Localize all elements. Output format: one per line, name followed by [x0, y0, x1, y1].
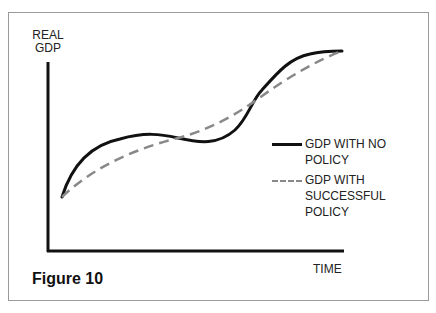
- x-axis-label: TIME: [313, 262, 342, 276]
- legend-item-successful-policy: GDP WITH SUCCESSFUL POLICY: [265, 172, 386, 220]
- solid-line-swatch-icon: [272, 143, 302, 146]
- legend-text: GDP WITH: [305, 172, 386, 188]
- dashed-line-swatch-icon: [272, 180, 302, 182]
- legend-text: POLICY: [305, 152, 386, 168]
- y-axis-label: REAL GDP: [32, 29, 64, 55]
- legend: GDP WITH NO POLICY GDP WITH SUCCESSFUL P…: [265, 136, 386, 224]
- legend-text: SUCCESSFUL: [305, 188, 386, 204]
- legend-item-no-policy: GDP WITH NO POLICY: [265, 136, 386, 168]
- legend-text: GDP WITH NO: [305, 136, 386, 152]
- y-axis-label-line2: GDP: [32, 42, 64, 55]
- legend-text: POLICY: [305, 204, 386, 220]
- figure-caption: Figure 10: [32, 270, 103, 288]
